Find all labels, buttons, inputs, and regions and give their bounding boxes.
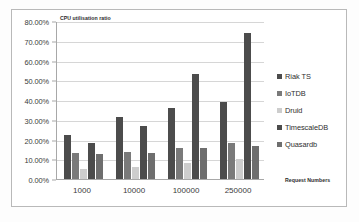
bar — [220, 102, 227, 179]
y-axis-tick-label: 70.00% — [25, 37, 49, 46]
legend-label: Riak TS — [285, 72, 311, 81]
bar — [132, 167, 139, 179]
legend-swatch-icon — [277, 74, 282, 79]
y-axis: 0.00%10.00%20.00%30.00%40.00%50.00%60.00… — [11, 22, 56, 182]
legend-label: TimescaleDB — [285, 123, 328, 132]
legend-label: Druid — [285, 106, 302, 115]
y-axis-tick-label: 60.00% — [25, 57, 49, 66]
legend-item[interactable]: Quasardb — [277, 136, 345, 153]
y-axis-tick-label: 80.00% — [25, 18, 49, 27]
bar — [252, 146, 259, 179]
bar — [200, 148, 207, 179]
y-axis-title: CPU utilisation ratio — [60, 15, 111, 21]
legend-item[interactable]: Riak TS — [277, 68, 345, 85]
legend-swatch-icon — [277, 125, 282, 130]
bar — [124, 152, 131, 179]
bar — [64, 135, 71, 179]
bar — [72, 153, 79, 179]
bar — [116, 117, 123, 179]
legend-swatch-icon — [277, 108, 282, 113]
legend-swatch-icon — [277, 142, 282, 147]
bar — [244, 33, 251, 179]
legend-item[interactable]: Druid — [277, 102, 345, 119]
x-axis-title: Request Numbers — [285, 177, 330, 183]
chart-legend: Riak TSIoTDBDruidTimescaleDBQuasardb — [277, 68, 345, 153]
y-axis-tick-label: 10.00% — [25, 156, 49, 165]
bar-group — [213, 22, 265, 179]
legend-item[interactable]: TimescaleDB — [277, 119, 345, 136]
x-axis-tick-label: 1000 — [73, 186, 91, 195]
bar — [88, 143, 95, 179]
bar — [148, 153, 155, 179]
bar — [176, 148, 183, 179]
bar-group — [57, 22, 109, 179]
x-axis-tick-label: 100000 — [173, 186, 200, 195]
bar — [168, 108, 175, 179]
chart-figure: CPU utilisation ratio 0.00%10.00%20.00%3… — [0, 0, 359, 222]
legend-item[interactable]: IoTDB — [277, 85, 345, 102]
y-axis-tick-label: 0.00% — [29, 176, 49, 185]
bar — [228, 143, 235, 179]
plot-area — [56, 22, 264, 180]
bar — [80, 169, 87, 179]
bar — [192, 74, 199, 179]
bar — [184, 163, 191, 179]
bar-group — [161, 22, 213, 179]
legend-swatch-icon — [277, 91, 282, 96]
y-axis-tick-label: 20.00% — [25, 136, 49, 145]
legend-label: IoTDB — [285, 89, 306, 98]
x-axis-labels: 100010000100000250000 — [56, 186, 264, 202]
bar — [140, 126, 147, 179]
y-axis-tick-label: 40.00% — [25, 97, 49, 106]
bar — [236, 159, 243, 179]
x-axis-tick-label: 10000 — [123, 186, 145, 195]
x-axis-tick-label: 250000 — [225, 186, 252, 195]
legend-label: Quasardb — [285, 140, 317, 149]
bar-group — [109, 22, 161, 179]
y-axis-tick-label: 50.00% — [25, 77, 49, 86]
bar — [96, 154, 103, 179]
y-axis-tick-label: 30.00% — [25, 116, 49, 125]
